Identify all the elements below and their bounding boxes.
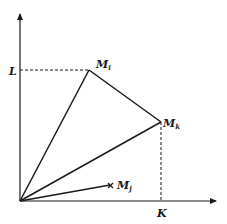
point-label-mk: Mk xyxy=(162,117,180,131)
point-label-mj: Mj xyxy=(116,179,132,193)
segment-mi-mk xyxy=(89,70,161,122)
point-label-mi: Mi xyxy=(95,58,111,72)
axis-label-k: K xyxy=(156,207,167,220)
axis-label-l: L xyxy=(8,65,17,78)
isoquant-diagram: L K Mi Mk Mj xyxy=(0,0,227,224)
